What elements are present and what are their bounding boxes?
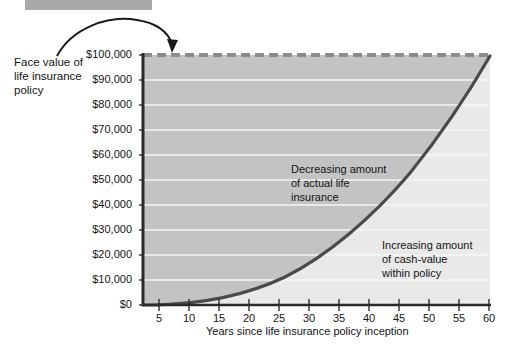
y-tick-label-30000: $30,000	[62, 223, 132, 236]
x-tick-label-5: 5	[146, 312, 172, 325]
increasing-cash-value-annotation: Increasing amount of cash-value within p…	[382, 238, 473, 280]
y-tick-label-60000: $60,000	[62, 148, 132, 161]
y-tick-label-80000: $80,000	[62, 98, 132, 111]
x-tick-label-30: 30	[296, 312, 322, 325]
x-tick-label-35: 35	[326, 312, 352, 325]
x-axis-title: Years since life insurance policy incept…	[206, 325, 409, 338]
y-tick-label-40000: $40,000	[62, 198, 132, 211]
chart-figure: $100,000 $90,000 $80,000 $70,000 $60,000…	[0, 0, 511, 353]
x-tick-label-60: 60	[476, 312, 502, 325]
x-tick-label-55: 55	[446, 312, 472, 325]
y-tick-label-70000: $70,000	[62, 123, 132, 136]
x-tick-label-45: 45	[386, 312, 412, 325]
decreasing-insurance-annotation: Decreasing amount of actual life insuran…	[291, 162, 386, 204]
x-tick-label-50: 50	[416, 312, 442, 325]
y-tick-label-20000: $20,000	[62, 248, 132, 261]
y-tick-label-10000: $10,000	[62, 273, 132, 286]
x-tick-label-15: 15	[206, 312, 232, 325]
y-tick-label-0: $0	[62, 298, 132, 311]
x-tick-label-10: 10	[176, 312, 202, 325]
x-tick-label-40: 40	[356, 312, 382, 325]
face-value-annotation: Face value of life insurance policy	[14, 55, 83, 97]
x-tick-label-20: 20	[236, 312, 262, 325]
y-tick-label-50000: $50,000	[62, 173, 132, 186]
x-tick-label-25: 25	[266, 312, 292, 325]
